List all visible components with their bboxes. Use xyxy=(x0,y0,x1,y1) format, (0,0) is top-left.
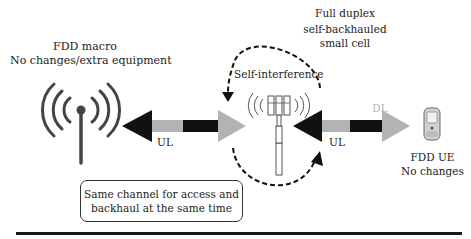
small-cell-tower-icon xyxy=(248,93,309,175)
note-line1: Same channel for access and xyxy=(84,187,239,201)
backhaul-link-arrow xyxy=(122,110,246,142)
small-cell-title-line2: self-backhauled xyxy=(300,22,390,36)
access-dl-label: DL xyxy=(365,101,395,115)
arrowhead-down-icon xyxy=(222,92,234,102)
note-line2: backhaul at the same time xyxy=(91,201,232,215)
macro-title: FDD macro xyxy=(20,40,150,54)
macro-subtitle: No changes/extra equipment xyxy=(10,54,160,68)
broadcast-antenna-icon xyxy=(42,84,119,163)
small-cell-title-line1: Full duplex xyxy=(300,6,390,20)
mobile-phone-icon xyxy=(424,108,440,140)
access-ul-label: UL xyxy=(322,135,352,149)
ue-title: FDD UE xyxy=(400,150,465,164)
self-interference-label: Self-interference xyxy=(234,67,314,81)
small-cell-title-line3: small cell xyxy=(300,36,390,50)
shared-channel-note: Same channel for access and backhaul at … xyxy=(80,180,243,222)
bottom-divider xyxy=(16,232,462,235)
backhaul-ul-label: UL xyxy=(150,135,180,149)
ue-subtitle: No changes xyxy=(400,164,465,178)
